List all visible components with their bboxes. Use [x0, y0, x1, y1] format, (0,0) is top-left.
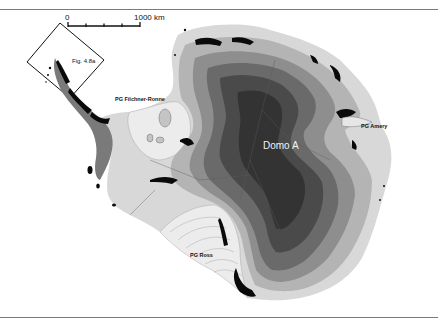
filchner-ronne-label: PG Filchner-Ronne	[115, 97, 165, 103]
scale-end-label: 1000 km	[134, 14, 165, 22]
amery-label: PG Amery	[361, 124, 387, 130]
antarctica-map	[0, 0, 438, 325]
scale-start-label: 0	[65, 14, 69, 22]
ross-label: PG Ross	[190, 253, 213, 259]
figure-box-label: Fig. 4.8a	[72, 58, 95, 64]
dome-a-label: Domo A	[263, 141, 299, 151]
scale-bar	[68, 22, 140, 27]
